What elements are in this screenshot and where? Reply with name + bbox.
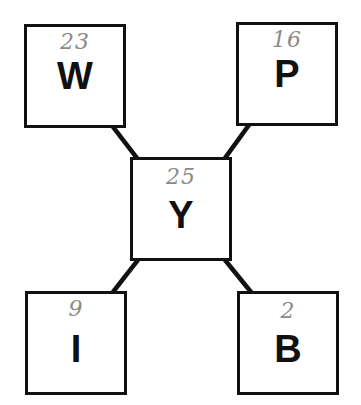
node-i-letter: I — [28, 330, 124, 368]
node-p: 16 P — [236, 22, 338, 126]
node-p-count: 16 — [239, 29, 335, 51]
node-i-count: 9 — [28, 298, 124, 320]
node-w-letter: W — [27, 57, 123, 95]
edge-p-y — [225, 125, 249, 158]
edge-b-y — [225, 260, 251, 292]
node-w: 23 W — [24, 24, 126, 128]
node-b-count: 2 — [240, 300, 336, 322]
node-b: 2 B — [237, 291, 339, 395]
node-i: 9 I — [25, 291, 127, 395]
node-w-count: 23 — [27, 31, 123, 53]
node-y-letter: Y — [133, 196, 229, 234]
node-y-center: 25 Y — [130, 157, 232, 261]
edge-i-y — [113, 260, 138, 292]
node-p-letter: P — [239, 55, 335, 93]
node-b-letter: B — [240, 330, 336, 368]
node-y-count: 25 — [133, 166, 229, 188]
edge-w-y — [113, 127, 137, 158]
